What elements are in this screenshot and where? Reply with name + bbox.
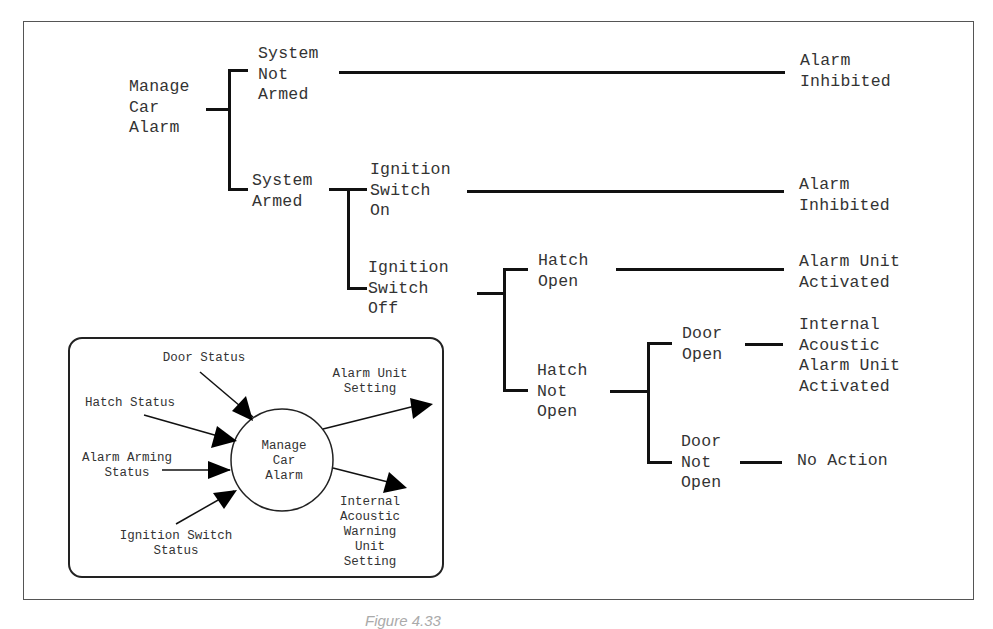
input-alarm-arming-status: Alarm Arming Status bbox=[72, 451, 182, 481]
process-manage-car-alarm: Manage Car Alarm bbox=[244, 439, 324, 484]
figure-caption: Figure 4.33 bbox=[365, 612, 441, 629]
output-internal-acoustic-warning-unit-setting: Internal Acoustic Warning Unit Setting bbox=[330, 495, 410, 570]
input-ignition-switch-status: Ignition Switch Status bbox=[106, 529, 246, 559]
output-alarm-unit-setting: Alarm Unit Setting bbox=[322, 367, 418, 397]
input-door-status: Door Status bbox=[124, 351, 284, 366]
input-hatch-status: Hatch Status bbox=[70, 396, 190, 411]
